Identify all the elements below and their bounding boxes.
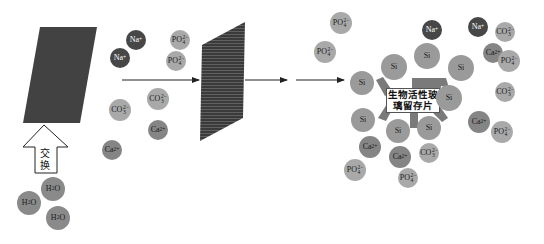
bioactive-glass-plate bbox=[23, 27, 97, 123]
diagram-canvas: 交 换 生物活性玻 璃留存片 H2OH2OH2ONa+Na+PO2−4PO2−4… bbox=[0, 0, 544, 244]
exchange-label-line1: 交 bbox=[37, 148, 53, 160]
carbonate-ion: CO2−3 bbox=[419, 143, 439, 163]
water-molecule: H2O bbox=[17, 191, 41, 215]
calcium-ion: Ca2+ bbox=[468, 111, 490, 133]
silicon-particle: Si bbox=[414, 43, 440, 69]
exchange-label: 交 换 bbox=[37, 148, 53, 172]
scaffold-label-line2: 璃留存片 bbox=[387, 100, 439, 111]
phosphate-ion: PO2−4 bbox=[491, 121, 513, 143]
calcium-ion: Ca2+ bbox=[389, 146, 411, 168]
silicon-particle: Si bbox=[386, 119, 410, 143]
phosphate-ion: PO2−4 bbox=[344, 159, 366, 181]
calcium-ion: Ca2+ bbox=[102, 140, 122, 160]
scaffold-label: 生物活性玻 璃留存片 bbox=[386, 88, 440, 113]
calcium-ion: Ca2+ bbox=[359, 136, 381, 158]
water-molecule: H2O bbox=[46, 206, 70, 230]
scaffold-label-line1: 生物活性玻 bbox=[387, 89, 439, 100]
carbonate-ion: CO2−3 bbox=[147, 88, 169, 110]
membrane-plate bbox=[200, 22, 245, 141]
carbonate-ion: CO2−3 bbox=[495, 82, 515, 102]
phosphate-ion: PO2−4 bbox=[330, 12, 352, 34]
carbonate-ion: CO2−3 bbox=[109, 99, 131, 121]
silicon-particle: Si bbox=[448, 55, 474, 81]
sodium-ion: Na+ bbox=[110, 48, 130, 68]
carbonate-ion: CO2−3 bbox=[495, 22, 515, 42]
sodium-ion: Na+ bbox=[126, 30, 146, 50]
diagram-shapes bbox=[0, 0, 544, 244]
silicon-particle: Si bbox=[351, 108, 375, 132]
phosphate-ion: PO2−4 bbox=[166, 51, 186, 71]
phosphate-ion: PO2−4 bbox=[314, 41, 336, 63]
exchange-label-line2: 换 bbox=[37, 160, 53, 172]
sodium-ion: Na+ bbox=[468, 17, 488, 37]
phosphate-ion: PO2−4 bbox=[498, 50, 520, 72]
phosphate-ion: PO2−4 bbox=[170, 30, 190, 50]
sodium-ion: Na+ bbox=[422, 20, 442, 40]
calcium-ion: Ca2+ bbox=[148, 120, 168, 140]
silicon-particle: Si bbox=[350, 71, 374, 95]
silicon-particle: Si bbox=[436, 85, 462, 111]
phosphate-ion: PO2−4 bbox=[398, 168, 418, 188]
silicon-particle: Si bbox=[381, 54, 407, 80]
water-molecule: H2O bbox=[41, 177, 65, 201]
silicon-particle: Si bbox=[417, 116, 441, 140]
